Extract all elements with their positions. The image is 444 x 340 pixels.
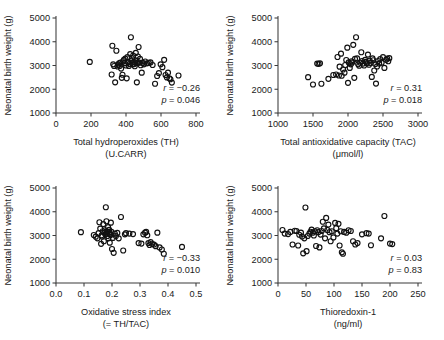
y-tick-label: 3000: [252, 61, 272, 71]
x-tick-label: 0.0: [50, 289, 63, 299]
data-point: [382, 214, 387, 219]
pvalue-annotation: p = 0.046: [160, 95, 200, 105]
y-tick-label: 4000: [30, 207, 50, 217]
data-point: [78, 230, 83, 235]
correlation-annotation: r = −0.26: [163, 83, 200, 93]
x-tick-label: 0: [275, 289, 280, 299]
y-axis-title: Neonatal birth weight (g): [3, 15, 13, 115]
data-point: [324, 215, 329, 220]
x-tick-label: 0: [53, 119, 58, 129]
figure-container: 100020003000400050000200400600800Total h…: [0, 0, 444, 340]
pvalue-annotation: p = 0.83: [388, 265, 422, 275]
data-point: [339, 51, 344, 56]
data-point: [134, 80, 139, 85]
data-point: [290, 242, 295, 247]
x-tick-label: 0.3: [134, 289, 147, 299]
y-axis-title: Neonatal birth weight (g): [225, 185, 235, 285]
x-axis-title-units: (μmol/l): [333, 149, 364, 159]
data-point: [114, 48, 119, 53]
y-tick-label: 2000: [30, 85, 50, 95]
data-point: [155, 230, 160, 235]
x-axis-title: Oxidative stress index: [81, 307, 171, 317]
x-tick-label: 0.5: [190, 289, 203, 299]
data-point: [369, 74, 374, 79]
data-point: [337, 243, 342, 248]
data-point: [382, 65, 387, 70]
data-point: [103, 205, 108, 210]
x-axis-title-units: (U.CARR): [105, 149, 146, 159]
data-point: [326, 222, 331, 227]
x-tick-label: 800: [188, 119, 203, 129]
scatter-panel-oxidative-stress-index: 100020003000400050000.00.10.20.30.40.5Ox…: [0, 170, 222, 340]
data-point: [108, 220, 113, 225]
y-tick-label: 1000: [252, 108, 272, 118]
data-point: [136, 44, 141, 49]
data-point: [365, 52, 370, 57]
scatter-panel-total-hydroperoxides: 100020003000400050000200400600800Total h…: [0, 0, 222, 170]
y-tick-label: 5000: [252, 13, 272, 23]
y-tick-label: 3000: [30, 231, 50, 241]
y-tick-label: 3000: [252, 231, 272, 241]
data-point: [346, 80, 351, 85]
y-tick-label: 4000: [252, 207, 272, 217]
data-point: [109, 72, 114, 77]
data-point: [323, 236, 328, 241]
data-point: [319, 81, 324, 86]
data-point: [176, 73, 181, 78]
data-point: [128, 35, 133, 40]
correlation-annotation: r = 0.03: [391, 253, 422, 263]
y-tick-label: 5000: [30, 13, 50, 23]
data-point: [379, 236, 384, 241]
x-tick-label: 100: [326, 289, 341, 299]
correlation-annotation: r = −0.33: [163, 253, 200, 263]
x-tick-label: 2500: [373, 119, 393, 129]
data-points: [78, 205, 184, 257]
data-point: [333, 220, 338, 225]
scatter-panel-total-antioxidative-capacity: 1000200030004000500010001500200025003000…: [222, 0, 444, 170]
y-tick-label: 5000: [30, 183, 50, 193]
panel-trx-plot: 10002000300040005000050100150200250Thior…: [222, 170, 444, 340]
data-point: [180, 244, 185, 249]
data-points: [87, 35, 181, 87]
data-points: [280, 205, 395, 256]
x-tick-label: 150: [354, 289, 369, 299]
data-point: [124, 76, 129, 81]
pvalue-annotation: p = 0.010: [160, 265, 200, 275]
data-point: [351, 42, 356, 47]
data-point: [87, 59, 92, 64]
x-tick-label: 200: [382, 289, 397, 299]
correlation-annotation: r = 0.31: [391, 83, 422, 93]
y-axis-title: Neonatal birth weight (g): [225, 15, 235, 115]
data-point: [118, 214, 123, 219]
x-tick-label: 0.2: [106, 289, 119, 299]
x-tick-label: 400: [118, 119, 133, 129]
panel-tac-plot: 1000200030004000500010001500200025003000…: [222, 0, 444, 170]
y-tick-label: 4000: [30, 37, 50, 47]
y-tick-label: 3000: [30, 61, 50, 71]
data-point: [121, 248, 126, 253]
data-point: [303, 205, 308, 210]
x-axis-title: Total hydroperoxides (TH): [73, 137, 179, 147]
panel-th-plot: 100020003000400050000200400600800Total h…: [0, 0, 222, 170]
x-tick-label: 50: [301, 289, 311, 299]
data-point: [311, 82, 316, 87]
y-axis-title: Neonatal birth weight (g): [3, 185, 13, 285]
y-tick-label: 2000: [252, 85, 272, 95]
x-tick-label: 0.1: [78, 289, 91, 299]
panel-osi-plot: 100020003000400050000.00.10.20.30.40.5Ox…: [0, 170, 222, 340]
data-point: [354, 35, 359, 40]
data-point: [352, 75, 357, 80]
x-tick-label: 200: [83, 119, 98, 129]
data-point: [306, 75, 311, 80]
y-tick-label: 1000: [30, 108, 50, 118]
data-point: [296, 243, 301, 248]
data-point: [139, 70, 144, 75]
y-tick-label: 5000: [252, 183, 272, 193]
data-points: [306, 35, 392, 87]
data-point: [374, 81, 379, 86]
data-point: [345, 45, 350, 50]
data-point: [336, 221, 341, 226]
data-point: [162, 57, 167, 62]
pvalue-annotation: p = 0.018: [382, 95, 422, 105]
x-tick-label: 600: [153, 119, 168, 129]
